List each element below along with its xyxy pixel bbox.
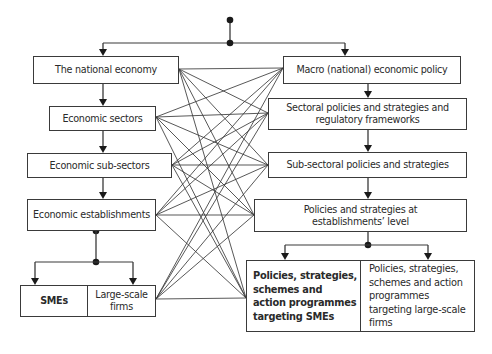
node-label: Large-scale firms [94, 289, 149, 313]
node-economic-sub-sectors: Economic sub-sectors [27, 153, 172, 178]
node-sme-policies: Policies, strategies, schemes and action… [246, 260, 361, 332]
node-economic-sectors: Economic sectors [49, 106, 156, 131]
arrow-sectoral-to-subsectoral-arrowhead [364, 145, 372, 152]
arrow-root-to-national-economy-arrowhead [99, 49, 107, 56]
arrow-establishments-to-smes-arrowhead [31, 278, 39, 285]
arrow-subsectoral-to-establishment-arrowhead [364, 192, 372, 199]
arrow-establishment-to-sme-policies-arrowhead [281, 253, 289, 260]
cross-link-economic_sectors-to-sectoral_policies [156, 113, 268, 117]
node-economic-establishments: Economic establishments [27, 199, 156, 231]
node-label: Economic establishments [33, 209, 150, 221]
arrow-national-to-sectors-arrowhead [99, 99, 107, 106]
node-sub-sectoral-policies: Sub-sectoral policies and strategies [268, 152, 467, 178]
node-label: Sub-sectoral policies and strategies [286, 159, 448, 171]
arrow-establishment-to-large-firm-policies-arrowhead [424, 253, 432, 260]
node-label: Policies, strategies, schemes and action… [253, 269, 357, 323]
node-label: Sectoral policies and strategies and reg… [285, 102, 450, 126]
arrow-sectors-to-subsectors-arrowhead [99, 146, 107, 153]
cross-link-national_economy-to-sub_sectoral_policies [179, 69, 268, 165]
root-dot-icon [227, 17, 234, 24]
root-junction-dot-icon [227, 40, 234, 47]
cross-link-economic_establishments-to-sme_policies [156, 215, 246, 298]
arrow-root-to-macro-policy-arrowhead [341, 49, 349, 56]
node-large-firm-policies: Policies, strategies, schemes and action… [360, 260, 475, 332]
arrow-subsectors-to-establishments-arrowhead [99, 192, 107, 199]
node-sectoral-policies: Sectoral policies and strategies and reg… [268, 98, 467, 130]
node-large-scale-firms: Large-scale firms [87, 285, 156, 317]
node-label: Economic sectors [62, 113, 142, 125]
node-smes: SMEs [20, 285, 88, 317]
arrow-macro-to-sectoral-arrowhead [364, 91, 372, 98]
arrow-establishments-to-large-firms-arrowhead [129, 278, 137, 285]
node-macro-policy: Macro (national) economic policy [283, 56, 461, 84]
node-establishment-policies: Policies and strategies at establishment… [254, 199, 467, 232]
cross-link-large_scale_firms-to-sme_policies [156, 298, 246, 299]
node-label: Policies, strategies, schemes and action… [369, 262, 471, 330]
node-label: SMEs [40, 295, 68, 307]
node-label: The national economy [55, 64, 157, 76]
node-label: Policies and strategies at establishment… [295, 204, 426, 228]
node-label: Macro (national) economic policy [296, 64, 447, 76]
node-label: Economic sub-sectors [50, 160, 150, 172]
cross-link-national_economy-to-macro_policy [179, 68, 283, 69]
node-national-economy: The national economy [33, 56, 179, 84]
